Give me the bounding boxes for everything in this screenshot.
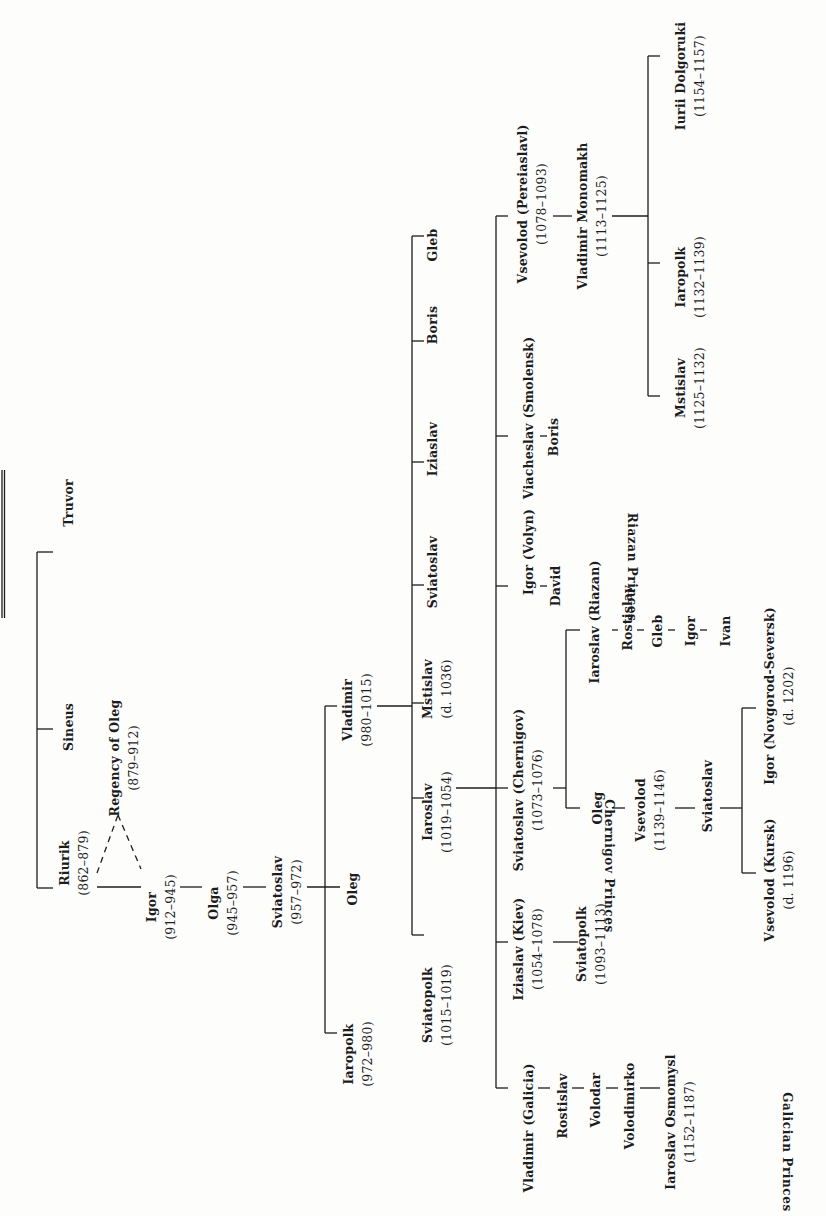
node-name: Vsevolod (Pereiaslavl) [513, 125, 532, 284]
node-vsevolod-pereiaslavl: Vsevolod (Pereiaslavl) (1078–1093) [513, 125, 551, 284]
node-oleg: Oleg [343, 872, 362, 905]
node-olga: Olga (945–957) [204, 870, 242, 936]
node-sviatoslav-chernigov: Sviatoslav (Chernigov) (1073–1076) [509, 709, 547, 872]
node-riurik: Riurik (862–879) [55, 830, 93, 896]
node-name: Sviatoslav [423, 536, 442, 608]
node-name: Igor (Volyn) [519, 509, 538, 595]
node-sviatopolk-1015: Sviatopolk (1015–1019) [418, 964, 456, 1046]
node-name: Iaroslav Osmomysl [661, 1054, 680, 1190]
node-sviatoslav-957: Sviatoslav (957–972) [268, 856, 306, 928]
node-name: Iziaslav [423, 422, 442, 477]
node-name: Vladimir Monomakh [573, 142, 592, 289]
node-dates: (1139–1146) [650, 769, 669, 851]
node-name: Regency of Oleg [105, 700, 124, 817]
node-vsevolod-1139: Vsevolod (1139–1146) [631, 769, 669, 851]
node-sineus: Sineus [59, 703, 78, 751]
node-igor-novgorod-seversk: Igor (Novgorod-Seversk) (d. 1202) [760, 607, 798, 785]
node-name: Vsevolod (Kursk) [760, 818, 779, 941]
node-name: Iaropolk [339, 1021, 358, 1087]
node-gleb: Gleb [423, 229, 442, 262]
node-rostislav-galicia: Rostislav [553, 1073, 572, 1138]
node-vsevolod-kursk: Vsevolod (Kursk) (d. 1196) [760, 818, 798, 941]
node-dates: (1078–1093) [532, 125, 551, 284]
group-label-chernigov-princes: Chernigov Princes [602, 799, 616, 933]
node-igor-volyn: Igor (Volyn) [519, 509, 538, 595]
node-iurii-dolgoruki: Iurii Dolgoruki (1154–1157) [671, 22, 709, 130]
node-name: Viacheslav (Smolensk) [519, 337, 538, 500]
node-dates: (d. 1036) [437, 659, 456, 719]
tree-connectors [0, 0, 826, 1216]
node-vladimir-galicia: Vladimir (Galicia) [519, 1063, 538, 1192]
node-mstislav-1036: Mstislav (d. 1036) [418, 659, 456, 719]
node-name: Iziaslav (Kiev) [509, 898, 528, 1001]
node-name: Ivan [716, 615, 735, 646]
node-name: Volodar [586, 1073, 605, 1128]
node-name: Gleb [423, 229, 442, 262]
group-label-galician-princes: Galician Princes [780, 1092, 794, 1212]
node-name: Mstislav [418, 659, 437, 719]
node-dates: (1015–1019) [437, 964, 456, 1046]
node-gleb-riazan: Gleb [648, 615, 667, 648]
node-sviatoslav-son-of-vladimir: Sviatoslav [423, 536, 442, 608]
node-dates: (1073–1076) [528, 709, 547, 872]
node-iaroslav-riazan: Iaroslav (Riazan) [585, 560, 604, 683]
node-name: Vsevolod [631, 769, 650, 851]
node-boris: Boris [423, 306, 442, 344]
node-dates: (972–980) [358, 1021, 377, 1087]
node-name: Volodimirko [620, 1062, 639, 1149]
node-name: Oleg [343, 872, 362, 905]
node-name: Sviatoslav [698, 760, 717, 832]
node-name: Vladimir [338, 673, 357, 747]
node-vladimir-980: Vladimir (980–1015) [338, 673, 376, 747]
node-dates: (879–912) [124, 700, 143, 817]
node-dates: (d. 1196) [779, 818, 798, 941]
node-dates: (d. 1202) [779, 607, 798, 785]
node-name: Truvor [59, 479, 78, 526]
node-name: Vladimir (Galicia) [519, 1063, 538, 1192]
node-name: Sineus [59, 703, 78, 751]
node-dates: (1019–1054) [437, 771, 456, 853]
node-name: Iaroslav (Riazan) [585, 560, 604, 683]
node-dates: (1125–1132) [690, 347, 709, 429]
node-iaroslav-osmomysl: Iaroslav Osmomysl (1152–1187) [661, 1054, 699, 1190]
node-viacheslav-smolensk: Viacheslav (Smolensk) [519, 337, 538, 500]
node-name: Igor [681, 616, 700, 646]
node-ivan-riazan: Ivan [716, 615, 735, 646]
node-sviatoslav-chernigov-grandson: Sviatoslav [698, 760, 717, 832]
node-iziaslav-kiev: Iziaslav (Kiev) (1054–1078) [509, 898, 547, 1001]
node-name: Iurii Dolgoruki [671, 22, 690, 130]
node-name: Riurik [55, 830, 74, 896]
node-name: Iaropolk [671, 236, 690, 318]
node-name: Mstislav [671, 347, 690, 429]
node-david: David [546, 566, 565, 607]
node-dates: (912–945) [161, 874, 180, 940]
node-dates: (862–879) [74, 830, 93, 896]
node-dates: (1113–1125) [592, 142, 611, 289]
node-iaropolk-972: Iaropolk (972–980) [339, 1021, 377, 1087]
node-volodimirko: Volodimirko [620, 1062, 639, 1149]
node-name: Sviatoslav [268, 856, 287, 928]
node-igor: Igor (912–945) [142, 874, 180, 940]
node-igor-riazan: Igor [681, 616, 700, 646]
node-dates: (957–972) [287, 856, 306, 928]
node-name: Boris [423, 306, 442, 344]
node-dates: (980–1015) [357, 673, 376, 747]
node-volodar: Volodar [586, 1073, 605, 1128]
node-name: Igor (Novgorod-Seversk) [760, 607, 779, 785]
node-mstislav-1125: Mstislav (1125–1132) [671, 347, 709, 429]
node-name: Igor [142, 874, 161, 940]
node-boris-smolensk: Boris [544, 418, 563, 456]
node-name: Gleb [648, 615, 667, 648]
node-name: Iaroslav [418, 771, 437, 853]
node-truvor: Truvor [59, 479, 78, 526]
group-label-riazan-princes: Riazan Princes [625, 513, 639, 622]
node-iaropolk-1132: Iaropolk (1132–1139) [671, 236, 709, 318]
node-name: David [546, 566, 565, 607]
node-name: Boris [544, 418, 563, 456]
node-name: Sviatopolk [572, 903, 591, 985]
node-iziaslav-son-of-vladimir: Iziaslav [423, 422, 442, 477]
node-regency-of-oleg: Regency of Oleg (879–912) [105, 700, 143, 817]
node-name: Sviatoslav (Chernigov) [509, 709, 528, 872]
node-name: Rostislav [553, 1073, 572, 1138]
node-dates: (945–957) [223, 870, 242, 936]
